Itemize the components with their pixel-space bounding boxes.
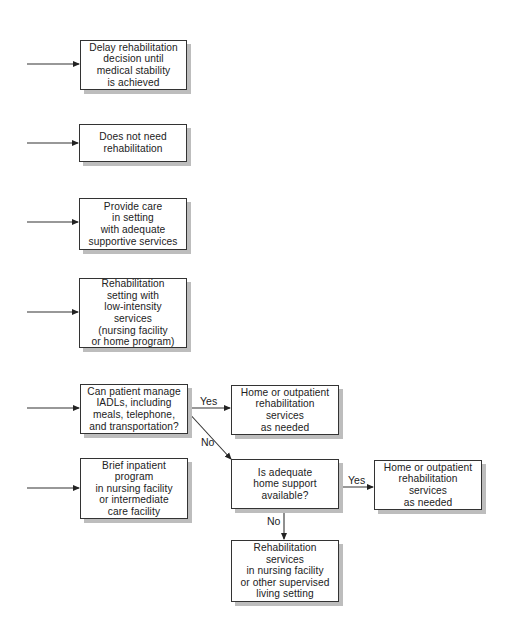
edge-label-yes-iadl: Yes (200, 395, 217, 407)
node-text: services (114, 313, 152, 325)
node-iadl-question: Can patient manage IADLs, including meal… (80, 384, 188, 434)
node-text: services (266, 410, 304, 422)
node-text: in nursing facility (95, 483, 172, 495)
node-text: Rehabilitation (101, 278, 164, 290)
node-home-outpatient-1: Home or outpatient rehabilitation servic… (231, 385, 339, 435)
node-text: or intermediate (99, 494, 168, 506)
node-no-need: Does not need rehabilitation (79, 124, 187, 162)
node-text: decision until (103, 53, 163, 65)
node-text: or other supervised (240, 577, 329, 589)
node-text: program (115, 471, 154, 483)
node-text: Provide care (104, 201, 162, 213)
node-text: IADLs, including (96, 397, 171, 409)
edge-label-no-iadl: No (201, 436, 214, 448)
edge-label-no-home-support: No (267, 515, 280, 527)
node-text: Delay rehabilitation (89, 42, 178, 54)
edge-label-yes-home-support: Yes (348, 474, 365, 486)
node-text: with adequate (101, 224, 166, 236)
node-text: as needed (404, 497, 453, 509)
no-arrow-iadl (187, 411, 231, 459)
node-text: medical stability (97, 65, 171, 77)
node-text: low-intensity (104, 301, 161, 313)
node-text: Is adequate (258, 467, 312, 479)
node-text: (nursing facility (98, 325, 168, 337)
node-text: in setting (112, 212, 154, 224)
node-text: in nursing facility (246, 565, 323, 577)
node-text: rehabilitation (255, 398, 314, 410)
node-text: Can patient manage (87, 386, 181, 398)
node-text: and transportation? (89, 421, 179, 433)
node-text: setting with (107, 290, 159, 302)
node-text: rehabilitation (103, 143, 162, 155)
node-text: Home or outpatient (241, 387, 329, 399)
node-low-intensity: Rehabilitation setting with low-intensit… (79, 278, 187, 348)
node-home-outpatient-2: Home or outpatient rehabilitation servic… (374, 460, 482, 510)
node-provide-care: Provide care in setting with adequate su… (79, 198, 187, 250)
node-text: is achieved (107, 77, 159, 89)
node-text: services (409, 485, 447, 497)
node-text: available? (262, 490, 309, 502)
node-text: supportive services (88, 236, 177, 248)
node-text: or home program) (91, 336, 174, 348)
node-brief-inpatient: Brief inpatient program in nursing facil… (80, 458, 188, 519)
node-text: Rehabilitation (253, 542, 316, 554)
node-supervised-setting: Rehabilitation services in nursing facil… (231, 540, 339, 602)
node-text: services (266, 554, 304, 566)
node-text: rehabilitation (398, 473, 457, 485)
node-text: living setting (256, 588, 313, 600)
node-text: Does not need (99, 131, 167, 143)
node-text: as needed (261, 422, 310, 434)
node-text: meals, telephone, (93, 409, 175, 421)
node-text: care facility (108, 506, 160, 518)
node-home-support-question: Is adequate home support available? (231, 459, 339, 509)
node-text: home support (253, 478, 317, 490)
node-delay-decision: Delay rehabilitation decision until medi… (80, 40, 187, 90)
node-text: Home or outpatient (384, 462, 472, 474)
node-text: Brief inpatient (102, 460, 166, 472)
